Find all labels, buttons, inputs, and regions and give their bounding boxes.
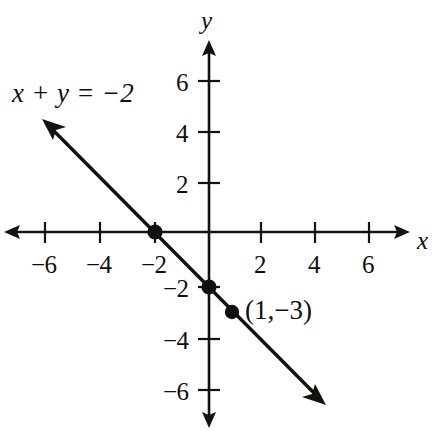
- plotted-line-x-plus-y-equals-neg2: [42, 119, 326, 405]
- y-tick-label-neg2: −2: [163, 276, 189, 301]
- line-upper-left-arrowhead: [42, 119, 66, 140]
- x-tick-label-neg2: −2: [141, 252, 167, 277]
- y-tick-label-4: 4: [176, 121, 188, 146]
- x-tick-label-4: 4: [308, 252, 320, 277]
- y-tick-label-2: 2: [176, 172, 188, 197]
- y-tick-label-neg6: −6: [163, 379, 189, 404]
- coordinate-plane-svg: [0, 0, 437, 431]
- point-1-neg3: [225, 305, 239, 319]
- y-tick-label-6: 6: [176, 70, 188, 95]
- y-axis-label: y: [201, 8, 212, 33]
- point-neg2-0: [147, 224, 162, 239]
- point-coordinate-annotation: (1,−3): [245, 297, 312, 324]
- x-tick-label-6: 6: [362, 252, 374, 277]
- x-axis-label: x: [417, 228, 428, 253]
- x-tick-label-neg4: −4: [86, 252, 112, 277]
- x-tick-label-neg6: −6: [31, 252, 57, 277]
- equation-annotation: x + y = −2: [12, 80, 134, 107]
- point-0-neg2: [201, 279, 216, 294]
- line-lower-right-arrowhead: [302, 384, 326, 405]
- y-tick-label-neg4: −4: [163, 328, 189, 353]
- x-tick-label-2: 2: [254, 252, 266, 277]
- x-axis: [4, 222, 410, 243]
- y-axis: [198, 40, 220, 428]
- graph-figure: −6 −4 −2 2 4 6 6 4 2 −2 −4 −6 y x x + y …: [0, 0, 437, 431]
